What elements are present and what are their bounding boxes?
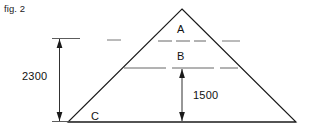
zone-label-b: B [177,50,184,62]
figure-container: fig. 2 2300 1500 A B C [0,0,318,130]
dim-2300-arrow-bottom [57,112,63,121]
dim-1500-arrow-bottom [179,112,185,121]
dim-2300-arrow-top [57,39,63,48]
zone-label-c: C [91,110,99,122]
triangle-diagram-svg [0,0,318,130]
zone-label-a: A [177,23,184,35]
dim-1500-arrow-top [179,69,185,78]
dimension-label-1500: 1500 [193,89,218,101]
dimension-label-2300: 2300 [22,70,47,82]
